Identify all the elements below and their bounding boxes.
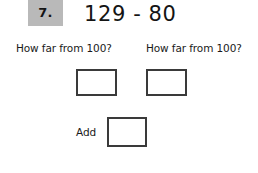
answer-box-add[interactable]	[107, 117, 147, 147]
problem-header: 7. 129 - 80	[0, 0, 258, 32]
problem-number-badge: 7.	[28, 0, 63, 26]
answer-box-left[interactable]	[76, 69, 117, 96]
answer-box-right[interactable]	[146, 69, 187, 96]
worksheet-problem: 7. 129 - 80 How far from 100? How far fr…	[0, 0, 258, 173]
problem-number-label: 7.	[38, 3, 52, 19]
add-row: Add	[0, 116, 258, 150]
prompt-row: How far from 100? How far from 100?	[0, 41, 258, 57]
prompt-label-right: How far from 100?	[146, 41, 242, 55]
equation-expression: 129 - 80	[84, 1, 177, 27]
prompt-label-left: How far from 100?	[16, 41, 112, 55]
add-label: Add	[76, 125, 96, 139]
